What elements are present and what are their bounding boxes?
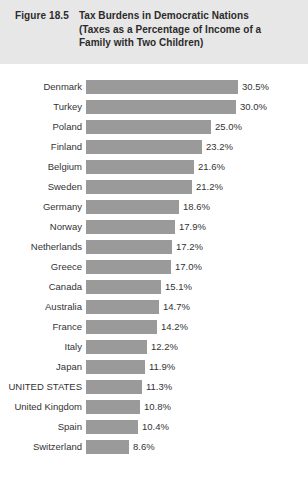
bar-value-label: 14.7% [163, 300, 190, 314]
bar-row: Turkey30.0% [0, 100, 308, 120]
bar-value-label: 15.1% [165, 280, 192, 294]
bar-category-label: Finland [0, 140, 82, 154]
bar-category-label: Italy [0, 340, 82, 354]
bar-value-label: 30.5% [242, 80, 269, 94]
bar-row: Italy12.2% [0, 340, 308, 360]
bar-chart: Denmark30.5%Turkey30.0%Poland25.0%Finlan… [0, 64, 308, 497]
bar-row: UNITED STATES11.3% [0, 380, 308, 400]
bar-value-label: 30.0% [240, 100, 267, 114]
bar-row: Australia14.7% [0, 300, 308, 320]
bar-fill [86, 200, 179, 214]
bar-category-label: Netherlands [0, 240, 82, 254]
bar-track [86, 360, 145, 374]
bar-category-label: Turkey [0, 100, 82, 114]
bar-fill [86, 100, 236, 114]
bar-track [86, 200, 179, 214]
bar-fill [86, 360, 145, 374]
bar-row: Germany18.6% [0, 200, 308, 220]
bar-track [86, 340, 147, 354]
bar-row: France14.2% [0, 320, 308, 340]
bar-value-label: 25.0% [215, 120, 242, 134]
bar-value-label: 10.8% [144, 400, 171, 414]
bar-category-label: UNITED STATES [0, 380, 82, 394]
bar-category-label: Norway [0, 220, 82, 234]
bar-category-label: Japan [0, 360, 82, 374]
bar-fill [86, 220, 175, 234]
bar-value-label: 10.4% [142, 420, 169, 434]
bar-fill [86, 320, 157, 334]
bar-category-label: Denmark [0, 80, 82, 94]
bar-category-label: Germany [0, 200, 82, 214]
bar-fill [86, 240, 172, 254]
bar-track [86, 160, 194, 174]
bar-row: Japan11.9% [0, 360, 308, 380]
figure-number-label: Figure 18.5 [15, 9, 69, 23]
bar-fill [86, 140, 202, 154]
bar-value-label: 8.6% [133, 440, 155, 454]
bar-value-label: 18.6% [183, 200, 210, 214]
bar-category-label: Spain [0, 420, 82, 434]
bar-track [86, 180, 192, 194]
bar-fill [86, 260, 171, 274]
bar-category-label: United Kingdom [0, 400, 82, 414]
bar-track [86, 280, 161, 294]
bar-fill [86, 340, 147, 354]
bar-fill [86, 160, 194, 174]
bar-track [86, 220, 175, 234]
bar-row: United Kingdom10.8% [0, 400, 308, 420]
bar-fill [86, 420, 138, 434]
bar-fill [86, 300, 159, 314]
bar-fill [86, 280, 161, 294]
bar-value-label: 17.2% [176, 240, 203, 254]
bar-fill [86, 180, 192, 194]
bar-track [86, 260, 171, 274]
bar-category-label: Greece [0, 260, 82, 274]
bar-category-label: Sweden [0, 180, 82, 194]
bar-fill [86, 400, 140, 414]
bar-track [86, 100, 236, 114]
bar-fill [86, 380, 142, 394]
bar-value-label: 17.9% [179, 220, 206, 234]
bar-row: Canada15.1% [0, 280, 308, 300]
bar-track [86, 240, 172, 254]
bar-row: Greece17.0% [0, 260, 308, 280]
bar-track [86, 380, 142, 394]
bar-category-label: Switzerland [0, 440, 82, 454]
bar-row: Switzerland8.6% [0, 440, 308, 460]
figure-container: Figure 18.5 Tax Burdens in Democratic Na… [0, 0, 308, 497]
bar-category-label: Australia [0, 300, 82, 314]
bar-row: Belgium21.6% [0, 160, 308, 180]
bar-row: Sweden21.2% [0, 180, 308, 200]
bar-row: Poland25.0% [0, 120, 308, 140]
bar-value-label: 17.0% [175, 260, 202, 274]
bar-value-label: 14.2% [161, 320, 188, 334]
bar-category-label: Canada [0, 280, 82, 294]
bar-category-label: Poland [0, 120, 82, 134]
bar-category-label: Belgium [0, 160, 82, 174]
bar-fill [86, 440, 129, 454]
figure-header-inner: Figure 18.5 Tax Burdens in Democratic Na… [15, 9, 302, 50]
bar-value-label: 23.2% [206, 140, 233, 154]
bar-row: Denmark30.5% [0, 80, 308, 100]
bar-track [86, 420, 138, 434]
figure-title-line-3: Family with Two Children) [79, 36, 302, 50]
bar-fill [86, 120, 211, 134]
bar-fill [86, 80, 238, 94]
bar-row: Netherlands17.2% [0, 240, 308, 260]
bar-track [86, 440, 129, 454]
bar-track [86, 140, 202, 154]
bar-value-label: 11.3% [146, 380, 172, 394]
figure-title-line-2: (Taxes as a Percentage of Income of a [79, 23, 302, 37]
bar-row: Norway17.9% [0, 220, 308, 240]
figure-header-band: Figure 18.5 Tax Burdens in Democratic Na… [0, 0, 308, 64]
bar-track [86, 320, 157, 334]
figure-title-line-1: Tax Burdens in Democratic Nations [79, 9, 302, 23]
bar-row: Finland23.2% [0, 140, 308, 160]
bar-track [86, 80, 238, 94]
bar-track [86, 120, 211, 134]
figure-title-block: Tax Burdens in Democratic Nations (Taxes… [79, 9, 302, 50]
bar-value-label: 21.6% [198, 160, 225, 174]
bar-row: Spain10.4% [0, 420, 308, 440]
bar-value-label: 11.9% [149, 360, 175, 374]
bar-value-label: 12.2% [151, 340, 178, 354]
